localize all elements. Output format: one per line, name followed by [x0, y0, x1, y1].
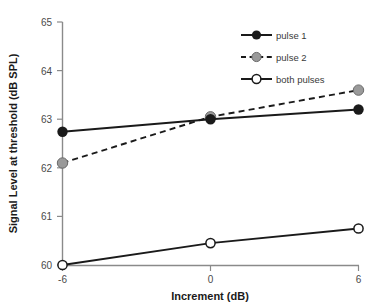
y-tick-label-60: 60 — [41, 260, 53, 271]
legend-marker-both-pulses — [252, 75, 261, 84]
pulse-1-point — [205, 114, 215, 124]
both-pulses-point — [354, 224, 363, 233]
y-axis-ticks — [57, 22, 63, 265]
both-pulses-point — [206, 239, 215, 248]
both-pulses-point — [58, 260, 67, 269]
legend-label-pulse-2: pulse 2 — [276, 52, 307, 63]
chart-container: 65 64 63 62 61 60 -6 0 6 Increment (dB) … — [0, 0, 382, 307]
legend-marker-pulse-2 — [252, 52, 261, 61]
legend-item-pulse-1[interactable]: pulse 1 — [241, 30, 307, 41]
x-tick-label-0: 0 — [208, 274, 214, 285]
series-pulse-1 — [57, 104, 363, 137]
legend-label-pulse-1: pulse 1 — [276, 30, 307, 41]
y-tick-label-62: 62 — [41, 163, 53, 174]
y-tick-label-61: 61 — [41, 211, 53, 222]
pulse-1-point — [57, 127, 67, 137]
pulse-2-point — [353, 85, 363, 95]
legend-item-pulse-2[interactable]: pulse 2 — [241, 52, 307, 63]
y-axis-title: Signal Level at threshold (dB SPL) — [7, 53, 19, 233]
line-chart: 65 64 63 62 61 60 -6 0 6 Increment (dB) … — [0, 0, 382, 307]
y-tick-label-63: 63 — [41, 114, 53, 125]
y-tick-label-65: 65 — [41, 17, 53, 28]
pulse-2-line — [63, 90, 359, 163]
series-both-pulses — [58, 224, 363, 270]
x-tick-label-minus6: -6 — [58, 274, 67, 285]
x-tick-label-6: 6 — [356, 274, 362, 285]
legend-item-both-pulses[interactable]: both pulses — [241, 74, 325, 85]
x-axis-title: Increment (dB) — [171, 290, 249, 302]
legend-label-both-pulses: both pulses — [276, 74, 325, 85]
pulse-1-point — [353, 104, 363, 114]
y-tick-label-64: 64 — [41, 66, 53, 77]
chart-legend: pulse 1 pulse 2 both pulses — [241, 30, 325, 85]
series-pulse-2 — [57, 85, 363, 168]
pulse-2-point — [57, 158, 67, 168]
legend-marker-pulse-1 — [252, 30, 261, 39]
x-axis-ticks — [63, 266, 359, 272]
